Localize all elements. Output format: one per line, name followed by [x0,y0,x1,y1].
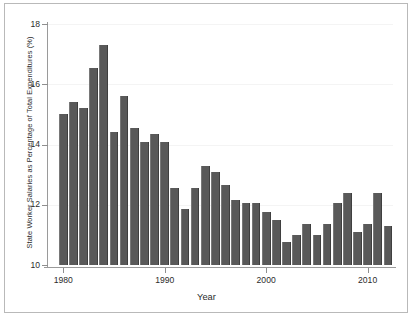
bar [150,134,159,265]
bar [363,224,372,265]
bar [221,185,230,265]
gridline [48,24,393,25]
bar [323,224,332,265]
bar [282,242,291,265]
plot-area [48,24,393,265]
bar [231,200,240,265]
bar [353,232,362,265]
bar [302,224,311,265]
x-axis-title: Year [0,292,413,302]
chart-figure: State Worker Salaries as Percentage of T… [0,0,413,319]
bar [99,45,108,265]
bar [130,128,139,265]
x-tick-mark [368,268,369,273]
bar [333,203,342,265]
x-tick-label: 2010 [348,276,388,285]
bar [373,193,382,265]
y-tick-label: 18 [16,20,40,29]
x-tick-label: 2000 [246,276,286,285]
bar [69,102,78,265]
bar [201,166,210,265]
bar [343,193,352,265]
bar [170,188,179,265]
bar [191,188,200,265]
x-tick-mark [266,268,267,273]
y-tick-label: 10 [16,261,40,270]
y-tick-label: 14 [16,140,40,149]
x-tick-label: 1990 [145,276,185,285]
x-tick-mark [165,268,166,273]
bar [59,114,68,265]
bar [262,212,271,265]
bar [384,226,393,265]
bar [110,132,119,265]
y-tick-label: 12 [16,200,40,209]
x-tick-label: 1980 [43,276,83,285]
bar [181,209,190,265]
bar [272,220,281,265]
x-axis-line [44,267,396,268]
y-tick-mark [42,265,48,266]
bar [242,203,251,265]
bar [211,172,220,265]
bar [120,96,129,265]
bar [252,203,261,265]
bar [160,142,169,266]
y-tick-label: 16 [16,80,40,89]
bar [89,68,98,265]
bar [313,235,322,265]
bar [79,108,88,265]
bar [140,142,149,266]
bar [292,235,301,265]
x-tick-mark [63,268,64,273]
